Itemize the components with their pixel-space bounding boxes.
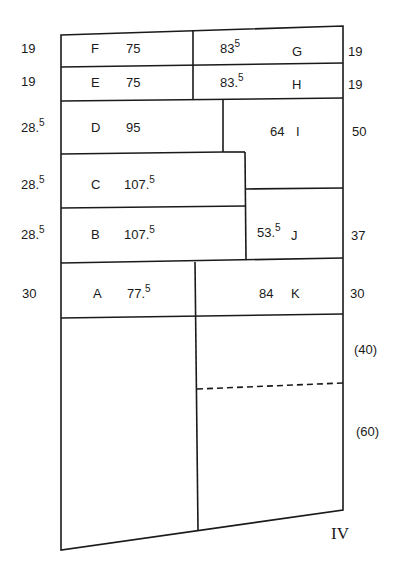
plot-d-value: 95	[126, 121, 140, 134]
right-width-h: 19	[348, 78, 362, 91]
plot-i-id: I	[296, 125, 300, 138]
outer-boundary	[61, 26, 343, 550]
right-width-j: 37	[351, 229, 365, 242]
plot-j-id: J	[291, 229, 298, 242]
plot-k-id: K	[291, 287, 300, 300]
plot-f-value: 75	[126, 42, 140, 55]
plot-a-value: 77.5	[127, 287, 151, 300]
left-width-c: 28.5	[21, 178, 45, 191]
plot-k-value: 84	[259, 287, 273, 300]
right-width-k: 30	[350, 287, 364, 300]
right-width-g: 19	[348, 45, 362, 58]
plot-h-id: H	[292, 78, 301, 91]
plot-c-id: C	[91, 178, 100, 191]
plot-b-id: B	[91, 228, 100, 241]
right-width-lower-lower-plot: (60)	[356, 425, 379, 438]
left-width-d: 28.5	[21, 121, 45, 134]
plot-h-value: 83.5	[220, 76, 244, 89]
right-width-upper-lower-plot: (40)	[354, 343, 377, 356]
plot-f-id: F	[91, 42, 99, 55]
plot-e-value: 75	[126, 76, 140, 89]
right-width-i: 50	[352, 125, 366, 138]
left-width-f: 19	[21, 42, 35, 55]
sheet-label: IV	[331, 524, 349, 544]
left-width-e: 19	[21, 75, 35, 88]
plot-b-value: 107.5	[124, 228, 155, 241]
left-width-a: 30	[22, 287, 36, 300]
plot-g-value: 835	[220, 42, 240, 55]
plot-j-value: 53.5	[257, 226, 281, 239]
plot-a-id: A	[93, 287, 102, 300]
left-width-b: 28.5	[21, 228, 45, 241]
plot-c-value: 107.5	[124, 178, 155, 191]
plot-g-id: G	[292, 45, 302, 58]
plot-d-id: D	[91, 121, 100, 134]
plot-e-id: E	[91, 76, 100, 89]
plot-i-value: 64	[270, 125, 284, 138]
